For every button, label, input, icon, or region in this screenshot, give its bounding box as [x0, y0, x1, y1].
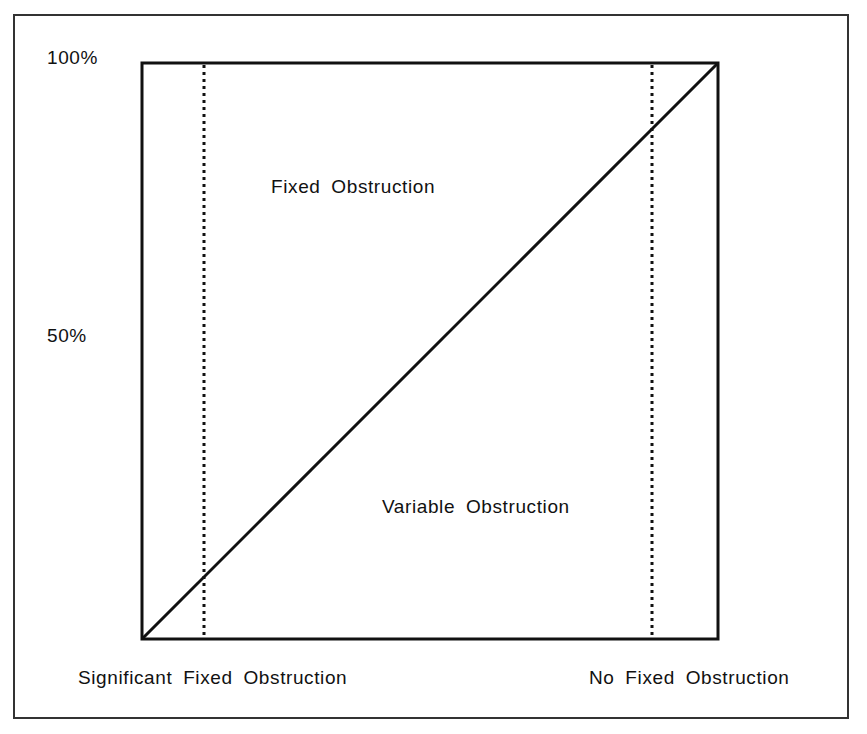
y-tick-100: 100%	[47, 47, 98, 69]
x-label-right: No Fixed Obstruction	[589, 667, 789, 689]
diagonal-line	[142, 63, 718, 639]
y-tick-50: 50%	[47, 325, 87, 347]
x-label-left: Significant Fixed Obstruction	[78, 667, 347, 689]
diagram-plot	[0, 0, 867, 734]
region-label-variable: Variable Obstruction	[382, 496, 570, 518]
region-label-fixed: Fixed Obstruction	[271, 176, 435, 198]
